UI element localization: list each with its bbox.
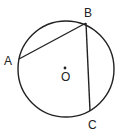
circle [18,21,114,117]
center-point [64,67,67,70]
chord-ab [19,23,86,59]
chord-bc [86,23,90,111]
label-c: C [88,118,97,132]
circle-diagram: A B C O [0,0,122,133]
label-o: O [61,70,70,84]
label-b: B [84,6,92,20]
label-a: A [4,54,12,68]
